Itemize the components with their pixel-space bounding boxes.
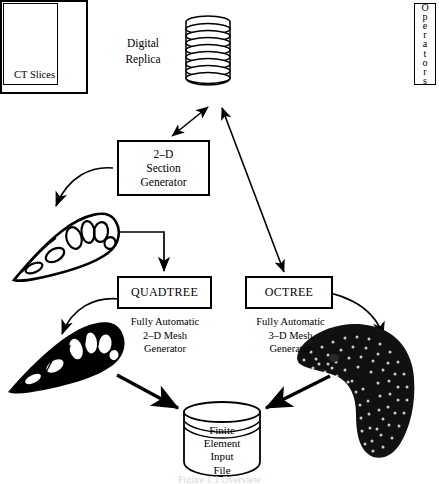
section-generator-box: 2–D Section Generator [117, 140, 210, 196]
digital-replica-panel: CT Slices O p e r a t o r s [0, 0, 88, 94]
quadtree-box: QUADTREE [117, 276, 212, 309]
arrow-ct-to-octree [222, 108, 284, 272]
quadtree-caption-line2: 2–D Mesh [104, 329, 226, 343]
octree-caption: Fully Automatic 3–D Mesh Generator [233, 315, 348, 356]
section-generator-line3: Generator [141, 175, 187, 189]
ct-slice-stack-shape [186, 16, 230, 85]
arrow-ct-to-section-generator [172, 107, 208, 136]
arrow-section-generator-to-section [56, 168, 113, 206]
operators-letter: s [415, 76, 435, 85]
quadtree-label: QUADTREE [131, 285, 198, 300]
output-store-line4: File [183, 464, 261, 477]
quadtree-caption: Fully Automatic 2–D Mesh Generator [104, 315, 226, 356]
octree-caption-line1: Fully Automatic [233, 315, 348, 329]
section-generator-line1: 2–D [154, 147, 174, 161]
octree-caption-line3: Generator [233, 342, 348, 356]
output-store-line3: Input [183, 450, 261, 463]
quadtree-caption-line1: Fully Automatic [104, 315, 226, 329]
arrow-2d-mesh-to-output [117, 375, 178, 408]
arrow-3d-mesh-to-output [266, 376, 330, 408]
section-outline-shape [14, 214, 119, 281]
output-store-label: Finite Element Input File [183, 424, 261, 477]
digital-replica-label: Digital Replica [112, 36, 174, 67]
octree-box: OCTREE [245, 276, 333, 309]
digital-replica-line1: Digital [127, 37, 159, 49]
ct-slices-cell: CT Slices [3, 3, 58, 85]
digital-replica-line2: Replica [125, 53, 160, 65]
octree-label: OCTREE [265, 285, 313, 300]
octree-caption-line2: 3–D Mesh [233, 329, 348, 343]
output-store-line1: Finite [183, 424, 261, 437]
section-generator-line2: Section [146, 161, 181, 175]
arrow-section-to-quadtree [118, 232, 164, 271]
figure-canvas: CT Slices O p e r a t o r s Digital Repl… [0, 0, 439, 484]
output-store-line2: Element [183, 437, 261, 450]
quadtree-caption-line3: Generator [104, 342, 226, 356]
ct-slices-label: CT Slices [7, 69, 62, 80]
operators-label: O p e r a t o r s [415, 3, 435, 86]
section-outline-cells [24, 220, 117, 275]
operators-cell: O p e r a t o r s [414, 3, 436, 85]
